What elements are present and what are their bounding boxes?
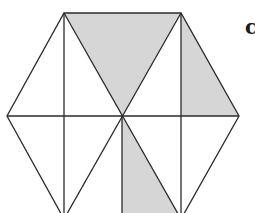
figure-label: c [245,17,255,37]
shaded-regions [64,13,239,213]
shaded-top-center-triangle [64,13,181,116]
hexagon-diagram [0,0,255,213]
